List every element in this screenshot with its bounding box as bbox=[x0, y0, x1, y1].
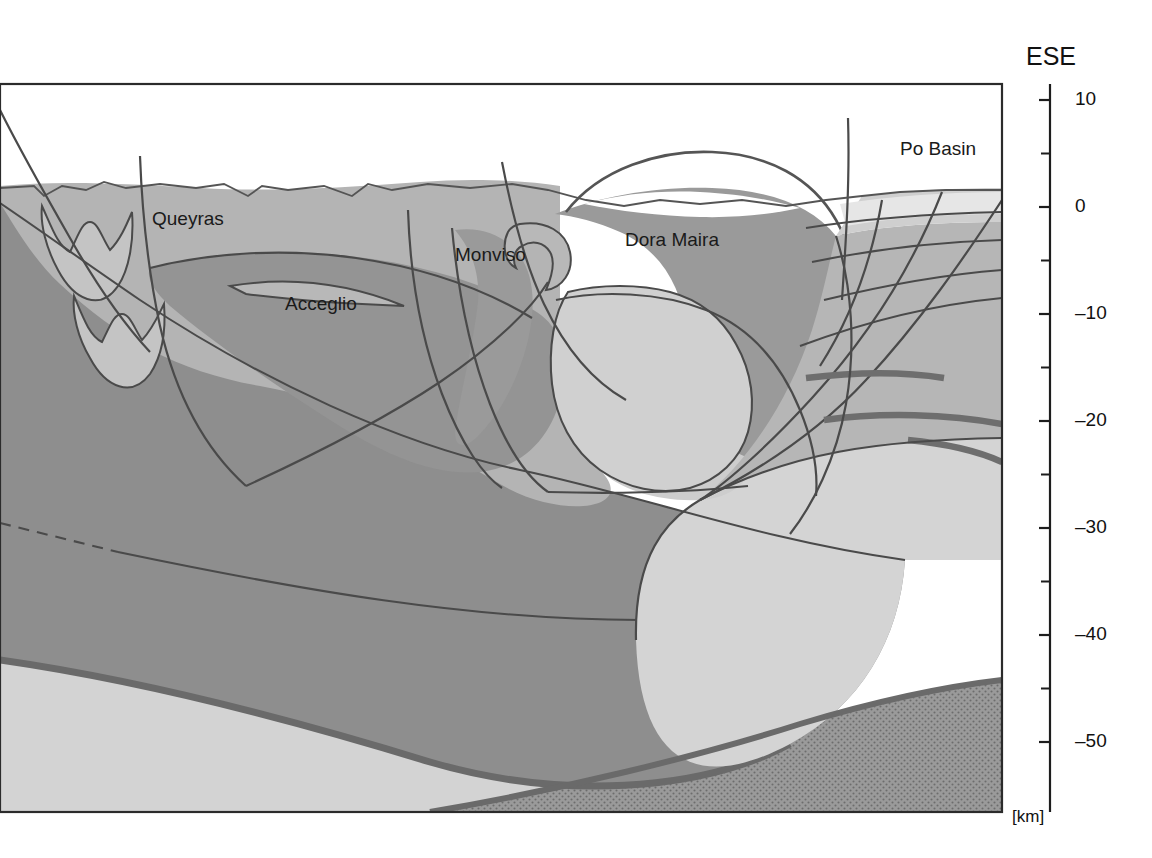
map-label-dora-maira: Dora Maira bbox=[625, 229, 719, 250]
section-body bbox=[0, 110, 1002, 812]
map-label-po-basin: Po Basin bbox=[900, 138, 976, 159]
axis-tick-label: –50 bbox=[1075, 730, 1107, 751]
map-label-ese: ESE bbox=[1026, 42, 1076, 70]
axis-tick-label: –40 bbox=[1075, 623, 1107, 644]
axis-tick-label: 0 bbox=[1075, 195, 1086, 216]
cross-section-svg: 100–10–20–30–40–50 QueyrasAcceglioMonvis… bbox=[0, 0, 1152, 858]
map-label-km: [km] bbox=[1012, 807, 1044, 826]
map-label-monviso: Monviso bbox=[455, 244, 526, 265]
axis-tick-label: –10 bbox=[1075, 302, 1107, 323]
map-label-queyras: Queyras bbox=[152, 208, 224, 229]
figure-canvas: 100–10–20–30–40–50 QueyrasAcceglioMonvis… bbox=[0, 0, 1152, 858]
axis-tick-label: –20 bbox=[1075, 409, 1107, 430]
axis-tick-label: –30 bbox=[1075, 516, 1107, 537]
depth-axis: 100–10–20–30–40–50 bbox=[1039, 84, 1107, 812]
axis-tick-label: 10 bbox=[1075, 88, 1096, 109]
map-label-acceglio: Acceglio bbox=[285, 293, 357, 314]
